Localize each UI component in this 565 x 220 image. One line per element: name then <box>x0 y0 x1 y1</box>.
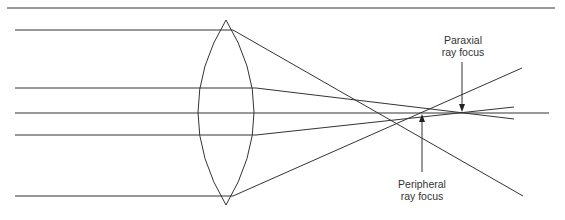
ray-diagram <box>0 0 565 220</box>
peripheral-label-line2: ray focus <box>394 190 450 202</box>
peripheral-label-line1: Peripheral <box>394 178 450 190</box>
paraxial-label-line1: Paraxial <box>437 34 489 46</box>
refracted-peripheral-ray-bottom <box>233 68 522 196</box>
paraxial-label-line2: ray focus <box>437 46 489 58</box>
peripheral-arrowhead-icon <box>419 114 425 122</box>
refracted-paraxial-ray-top <box>256 88 514 119</box>
peripheral-focus-label: Peripheral ray focus <box>394 178 450 202</box>
paraxial-arrowhead-icon <box>459 104 465 112</box>
paraxial-focus-label: Paraxial ray focus <box>437 34 489 58</box>
spherical-aberration-diagram: Paraxial ray focus Peripheral ray focus <box>0 0 565 220</box>
refracted-paraxial-ray-bottom <box>256 107 514 135</box>
